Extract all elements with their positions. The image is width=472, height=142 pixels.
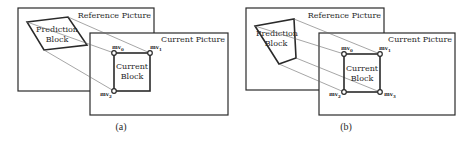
prediction-block-label-2: Block [265,39,288,48]
affine-motion-diagram: Reference Picture Prediction Block Curre… [0,0,472,142]
prediction-block-label-2: Block [46,35,69,44]
panel-caption-a: (a) [115,121,126,133]
control-point-mv0 [112,51,117,56]
control-point-mv3 [378,90,383,95]
current-block-label: Current [116,62,149,71]
control-point-mv2 [112,89,117,94]
control-point-mv0 [342,52,347,57]
reference-picture-label: Reference Picture [78,11,152,20]
reference-picture-label: Reference Picture [308,11,382,20]
current-picture-label: Current Picture [388,35,452,44]
prediction-block-label: Prediction [256,29,298,38]
control-point-mv2 [342,90,347,95]
control-point-mv1 [148,51,153,56]
current-block-label-2: Block [351,74,374,83]
panel-b: Reference Picture Prediction Block Curre… [246,8,455,133]
current-block-label-2: Block [121,72,144,81]
panel-caption-b: (b) [340,121,352,133]
current-picture-label: Current Picture [161,35,225,44]
current-block-label: Current [346,64,379,73]
panel-a: Reference Picture Prediction Block Curre… [18,8,228,133]
control-point-mv1 [378,52,383,57]
